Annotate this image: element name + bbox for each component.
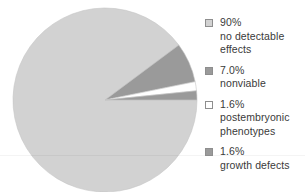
pie-slice-group [13,8,197,192]
legend-swatch-postembryonic-phenotypes [205,101,213,109]
legend-swatch-no-detectable-effects [205,19,213,27]
pie-chart-figure: 90% no detectable effects 7.0% nonviable… [0,0,305,192]
legend-item-growth-defects[interactable]: 1.6% growth defects [205,145,305,172]
legend-item-nonviable[interactable]: 7.0% nonviable [205,64,305,91]
legend-swatch-growth-defects [205,148,213,156]
legend-item-no-detectable-effects[interactable]: 90% no detectable effects [205,16,305,57]
chart-legend: 90% no detectable effects 7.0% nonviable… [205,16,305,179]
legend-label-nonviable: 7.0% nonviable [220,64,266,91]
legend-label-no-detectable-effects: 90% no detectable effects [220,16,284,57]
legend-swatch-nonviable [205,67,213,75]
pie-chart-svg [0,0,200,192]
legend-label-postembryonic-phenotypes: 1.6% postembryonic phenotypes [220,98,290,139]
legend-label-growth-defects: 1.6% growth defects [220,145,290,172]
pie-chart-plot-area [0,0,200,192]
legend-item-postembryonic-phenotypes[interactable]: 1.6% postembryonic phenotypes [205,98,305,139]
